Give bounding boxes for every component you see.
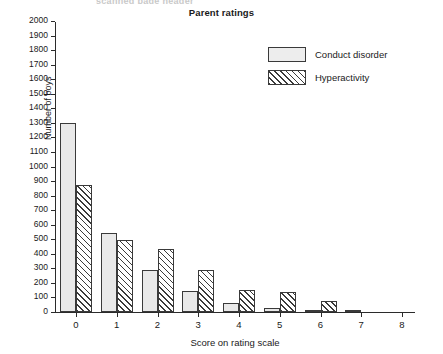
- y-axis-tick: 1700: [51, 65, 55, 66]
- y-axis-tick-label: 2000: [29, 15, 48, 26]
- x-axis-tick-label: 6: [306, 319, 336, 330]
- x-axis-tick: [158, 313, 159, 317]
- bar: [182, 291, 198, 312]
- x-axis-tick: [198, 313, 199, 317]
- y-axis-tick-label: 1100: [30, 146, 48, 157]
- y-axis-tick-label: 1800: [29, 44, 48, 55]
- bar: [117, 240, 133, 312]
- y-axis-tick: 1900: [51, 36, 55, 37]
- y-axis-tick: 1100: [51, 152, 55, 153]
- y-axis-tick-label: 200: [34, 277, 48, 288]
- x-axis-tick-label: 7: [346, 319, 376, 330]
- y-axis-tick: 100: [51, 297, 55, 298]
- y-axis-tick: 300: [51, 268, 55, 269]
- bar: [198, 270, 214, 312]
- y-axis-tick: 700: [51, 210, 55, 211]
- legend-swatch: [268, 70, 306, 85]
- bar: [60, 123, 76, 312]
- bar: [305, 310, 321, 312]
- bar: [280, 292, 296, 312]
- y-axis-tick: 600: [51, 225, 55, 226]
- y-axis-tick: 900: [51, 181, 55, 182]
- y-axis-tick-label: 100: [34, 291, 48, 302]
- x-axis-tick-label: 4: [224, 319, 254, 330]
- bar: [239, 290, 255, 312]
- x-axis-tick-label: 5: [265, 319, 295, 330]
- x-axis-tick-label: 1: [102, 319, 132, 330]
- y-axis-tick: 1000: [51, 167, 55, 168]
- y-axis-tick: 800: [51, 196, 55, 197]
- scanned-page-header-ghost: scanned page header: [96, 0, 396, 4]
- y-axis-tick-label: 400: [34, 248, 48, 259]
- legend-label: Conduct disorder: [315, 49, 387, 60]
- bar: [158, 249, 174, 312]
- x-axis-tick: [280, 313, 281, 317]
- y-axis-tick: 1800: [51, 50, 55, 51]
- bar: [264, 308, 280, 312]
- y-axis-tick-label: 0: [43, 306, 48, 317]
- legend-item: Hyperactivity: [268, 67, 387, 87]
- x-axis-tick: [361, 313, 362, 317]
- bar: [76, 185, 92, 312]
- y-axis-tick-label: 800: [34, 190, 48, 201]
- legend-label: Hyperactivity: [315, 72, 369, 83]
- legend-swatch: [268, 47, 306, 62]
- y-axis-tick-label: 500: [34, 233, 48, 244]
- chart-legend: Conduct disorderHyperactivity: [268, 44, 387, 90]
- y-axis-tick-label: 1000: [29, 161, 48, 172]
- x-axis-tick: [76, 313, 77, 317]
- x-axis-tick: [239, 313, 240, 317]
- y-axis-tick-label: 900: [34, 175, 48, 186]
- y-axis-tick: 2000: [51, 21, 55, 22]
- bar: [101, 233, 117, 312]
- x-axis-title: Score on rating scale: [55, 337, 415, 348]
- x-axis-tick-label: 8: [387, 319, 417, 330]
- y-axis-tick-label: 300: [34, 262, 48, 273]
- y-axis-tick: 500: [51, 239, 55, 240]
- bar: [345, 310, 361, 312]
- y-axis-title: Number of boys: [43, 76, 53, 140]
- y-axis-tick-label: 600: [34, 219, 48, 230]
- legend-item: Conduct disorder: [268, 44, 387, 64]
- x-axis-tick-label: 3: [183, 319, 213, 330]
- x-axis-tick-label: 2: [143, 319, 173, 330]
- y-axis-tick-label: 700: [34, 204, 48, 215]
- bar: [321, 301, 337, 312]
- y-axis-tick: 200: [51, 283, 55, 284]
- y-axis-tick-label: 1900: [29, 30, 48, 41]
- x-axis-tick: [117, 313, 118, 317]
- x-axis-tick: [402, 313, 403, 317]
- y-axis-tick: 0: [51, 312, 55, 313]
- y-axis-tick-label: 1700: [29, 59, 48, 70]
- y-axis-tick: 400: [51, 254, 55, 255]
- chart-title: Parent ratings: [0, 7, 443, 18]
- bar: [142, 270, 158, 312]
- x-axis-tick: [321, 313, 322, 317]
- x-axis-tick-label: 0: [61, 319, 91, 330]
- bar: [223, 303, 239, 312]
- y-axis-line: [55, 22, 56, 313]
